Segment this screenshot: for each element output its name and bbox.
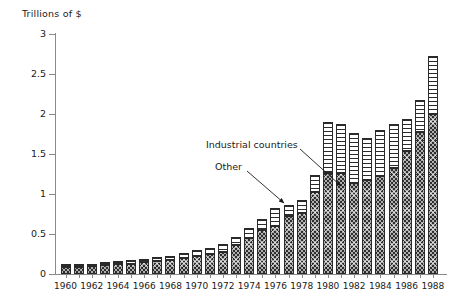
bar-segment-industrial: [100, 265, 110, 274]
bar-segment-industrial: [192, 256, 202, 274]
bar-1985: [389, 124, 399, 274]
bar-1963: [100, 262, 110, 274]
bar-segment-industrial: [231, 245, 241, 274]
bar-1977: [284, 205, 294, 274]
bar-segment-other: [218, 244, 228, 251]
bar-1983: [362, 138, 372, 274]
x-tick-mark: [92, 274, 93, 278]
x-tick-mark: [328, 274, 329, 278]
bar-segment-other: [257, 219, 267, 230]
bar-1974: [244, 228, 254, 274]
arrow-industrial-countries: [300, 149, 341, 186]
bar-segment-industrial: [87, 266, 97, 274]
bar-segment-industrial: [113, 264, 123, 274]
x-tick-mark: [210, 274, 211, 278]
x-tick-mark: [131, 274, 132, 278]
x-tick-mark: [407, 274, 408, 278]
y-axis-line: [55, 33, 56, 275]
bar-segment-industrial: [389, 168, 399, 274]
x-tick-mark: [315, 274, 316, 278]
bar-segment-industrial: [218, 252, 228, 274]
bar-1961: [74, 264, 84, 274]
bar-segment-industrial: [323, 173, 333, 274]
bar-1981: [336, 124, 346, 274]
bar-segment-industrial: [257, 230, 267, 274]
x-tick-mark: [66, 274, 67, 278]
bar-1970: [192, 250, 202, 274]
y-tick-mark: [49, 74, 55, 75]
bar-segment-other: [284, 205, 294, 216]
y-tick-label: 1.5: [16, 148, 46, 159]
bar-1987: [415, 100, 425, 274]
bar-1975: [257, 219, 267, 274]
bar-segment-other: [375, 130, 385, 176]
y-tick-mark: [49, 154, 55, 155]
x-tick-mark: [354, 274, 355, 278]
x-tick-mark: [433, 274, 434, 278]
annotation-industrial-countries: Industrial countries: [206, 139, 298, 150]
y-tick-mark: [49, 34, 55, 35]
bar-1978: [297, 200, 307, 274]
x-axis-line: [55, 274, 447, 275]
bar-segment-other: [336, 124, 346, 174]
bar-segment-industrial: [375, 176, 385, 274]
bar-segment-other: [297, 200, 307, 213]
bar-1976: [270, 208, 280, 274]
bar-segment-other: [415, 100, 425, 132]
x-tick-mark: [157, 274, 158, 278]
bar-1986: [402, 119, 412, 274]
x-tick-mark: [170, 274, 171, 278]
bar-segment-industrial: [349, 183, 359, 274]
bar-segment-other: [310, 175, 320, 193]
x-tick-mark: [341, 274, 342, 278]
bar-segment-industrial: [179, 258, 189, 274]
bar-segment-other: [349, 133, 359, 183]
x-tick-mark: [79, 274, 80, 278]
bar-1964: [113, 261, 123, 274]
y-tick-mark: [49, 274, 55, 275]
bar-segment-other: [402, 119, 412, 151]
bar-segment-industrial: [244, 238, 254, 274]
x-tick-label: 1988: [418, 281, 448, 291]
bar-segment-industrial: [362, 180, 372, 274]
bar-segment-other: [231, 237, 241, 245]
y-tick-mark: [49, 194, 55, 195]
bar-1988: [428, 56, 438, 274]
bar-1969: [179, 253, 189, 274]
x-tick-mark: [249, 274, 250, 278]
bar-segment-industrial: [61, 267, 71, 274]
bar-1972: [218, 244, 228, 274]
bar-segment-industrial: [270, 226, 280, 274]
bar-segment-industrial: [139, 262, 149, 274]
x-tick-mark: [184, 274, 185, 278]
x-tick-mark: [289, 274, 290, 278]
x-tick-mark: [380, 274, 381, 278]
x-tick-mark: [236, 274, 237, 278]
y-tick-label: 2: [16, 108, 46, 119]
bar-segment-other: [389, 124, 399, 168]
bar-1979: [310, 175, 320, 274]
bar-segment-industrial: [415, 132, 425, 274]
bar-segment-industrial: [126, 264, 136, 274]
bar-1962: [87, 264, 97, 274]
bar-segment-industrial: [284, 216, 294, 274]
x-tick-mark: [223, 274, 224, 278]
bar-1973: [231, 237, 241, 274]
bar-1966: [139, 259, 149, 274]
bar-segment-other: [323, 122, 333, 173]
bar-segment-industrial: [165, 260, 175, 274]
x-tick-mark: [275, 274, 276, 278]
y-tick-mark: [49, 234, 55, 235]
x-tick-mark: [144, 274, 145, 278]
bar-1960: [61, 264, 71, 274]
bar-segment-other: [428, 56, 438, 114]
bar-segment-industrial: [152, 261, 162, 274]
bar-segment-industrial: [336, 173, 346, 274]
y-tick-label: 0.5: [16, 228, 46, 239]
bar-segment-other: [362, 138, 372, 180]
x-tick-mark: [105, 274, 106, 278]
bar-1980: [323, 122, 333, 274]
y-axis-title: Trillions of $: [22, 8, 82, 19]
x-tick-mark: [367, 274, 368, 278]
bar-segment-other: [270, 208, 280, 226]
